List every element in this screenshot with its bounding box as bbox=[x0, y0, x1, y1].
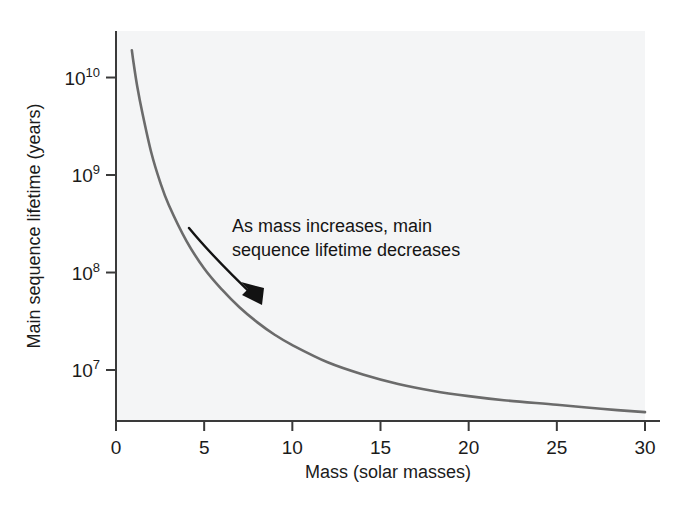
x-tick-label: 30 bbox=[634, 437, 655, 458]
x-tick-label: 10 bbox=[282, 437, 303, 458]
y-axis-title: Main sequence lifetime (years) bbox=[24, 103, 44, 348]
x-axis-title: Mass (solar masses) bbox=[305, 462, 471, 482]
annotation-line-2: sequence lifetime decreases bbox=[232, 240, 460, 260]
x-tick-label: 15 bbox=[370, 437, 391, 458]
annotation-line-1: As mass increases, main bbox=[232, 216, 432, 236]
y-tick-label: 108 bbox=[72, 260, 100, 284]
y-tick-label: 1010 bbox=[64, 65, 100, 89]
x-tick-label: 5 bbox=[199, 437, 210, 458]
y-tick-label: 109 bbox=[72, 162, 100, 186]
y-tick-group: 1071081091010 bbox=[64, 65, 116, 382]
x-tick-group: 051015202530 bbox=[111, 421, 656, 458]
x-tick-label: 0 bbox=[111, 437, 122, 458]
chart-canvas: 1071081091010 051015202530 As mass incre… bbox=[0, 0, 690, 517]
x-tick-label: 25 bbox=[546, 437, 567, 458]
figure-container: 1071081091010 051015202530 As mass incre… bbox=[0, 0, 690, 517]
x-tick-label: 20 bbox=[458, 437, 479, 458]
y-tick-label: 107 bbox=[72, 357, 100, 381]
